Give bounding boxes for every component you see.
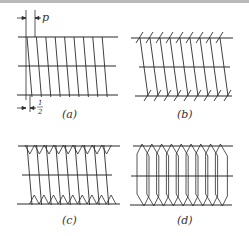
helix-strand-line	[65, 37, 70, 97]
arrow-head-icon	[22, 17, 26, 20]
panel-d	[130, 144, 233, 206]
helix-strand-line	[55, 37, 60, 97]
panel-a	[17, 37, 118, 97]
winding-loop	[215, 144, 227, 206]
panel-b	[131, 32, 233, 101]
half-pitch-denominator: 2	[37, 108, 43, 116]
helix-strand-line	[83, 37, 88, 97]
half-pitch-numerator: 1	[38, 99, 42, 107]
winding-diagram: p 1 2 (a) (b) (c) (d)	[0, 0, 249, 236]
panel-c	[17, 145, 120, 205]
helix-strand-line	[74, 37, 79, 97]
panel-label-c: (c)	[62, 214, 77, 227]
zigzag-bottom	[30, 195, 116, 204]
pitch-symbol: p	[42, 11, 49, 24]
helix-strand-line	[46, 37, 51, 97]
panel-label-d: (d)	[177, 214, 193, 227]
helix-strand-line	[27, 37, 32, 97]
helix-strand-line	[93, 37, 98, 97]
helix-strand-line	[102, 37, 107, 97]
panel-label-b: (b)	[177, 108, 193, 121]
helix-strand-line	[36, 37, 41, 97]
arrow-head-icon	[22, 107, 26, 110]
panel-label-a: (a)	[62, 108, 77, 121]
arrow-head-icon	[30, 107, 34, 110]
arrow-head-icon	[35, 17, 39, 20]
